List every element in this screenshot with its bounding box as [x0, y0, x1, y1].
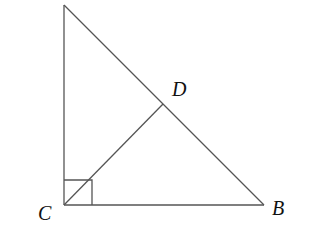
label-c: C [38, 202, 52, 224]
geometry-diagram: D C B [0, 0, 314, 236]
segment-cd [64, 104, 163, 205]
label-d: D [171, 78, 187, 100]
label-b: B [272, 197, 284, 219]
